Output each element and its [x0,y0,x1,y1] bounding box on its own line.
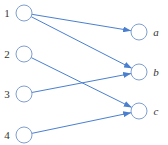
edge-1-b [31,17,132,69]
node-label-b: b [153,66,159,78]
node-c [131,103,147,119]
edge-4-c [32,113,131,134]
node-3 [16,86,32,102]
edge-1-a [32,14,131,30]
nodes: 1234abc [4,5,159,143]
node-label-2: 2 [4,48,10,60]
node-4 [16,127,32,143]
node-label-3: 3 [4,88,10,100]
node-label-1: 1 [4,7,10,19]
node-2 [16,46,32,62]
node-label-a: a [153,26,159,38]
node-label-c: c [154,105,159,117]
node-a [131,24,147,40]
edges [31,14,132,133]
node-label-4: 4 [4,129,10,141]
node-1 [16,5,32,21]
edge-3-b [32,74,131,93]
node-b [131,64,147,80]
bipartite-diagram: 1234abc [0,0,168,145]
